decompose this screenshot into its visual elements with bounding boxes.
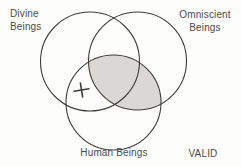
circle-label-omniscient: Omniscient Beings [170, 9, 240, 34]
circle-label-human: Human Beings [64, 147, 164, 160]
venn-diagram-page: Divine Beings Omniscient Beings Human Be… [0, 0, 241, 167]
circle-label-divine: Divine Beings [10, 8, 41, 33]
verdict-text: VALID [182, 148, 224, 161]
existential-plus-mark [73, 82, 90, 98]
